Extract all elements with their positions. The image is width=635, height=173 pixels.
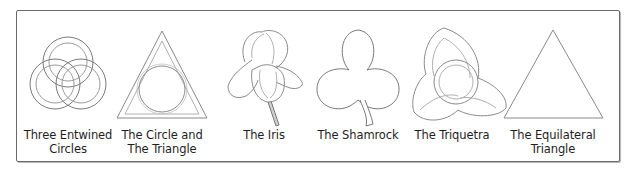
triquetra-icon [413, 28, 506, 120]
equilateral-triangle-icon [504, 30, 603, 118]
shamrock-icon [317, 30, 399, 126]
circle-and-triangle-icon [117, 31, 207, 118]
label-equilateral-triangle: The Equilateral Triangle [493, 128, 613, 156]
label-line-2: Triangle [493, 142, 613, 156]
label-line-1: The Equilateral [493, 128, 613, 142]
three-entwined-circles-icon [30, 37, 106, 109]
iris-icon [228, 31, 302, 127]
label-line-2: The Triangle [102, 142, 222, 156]
